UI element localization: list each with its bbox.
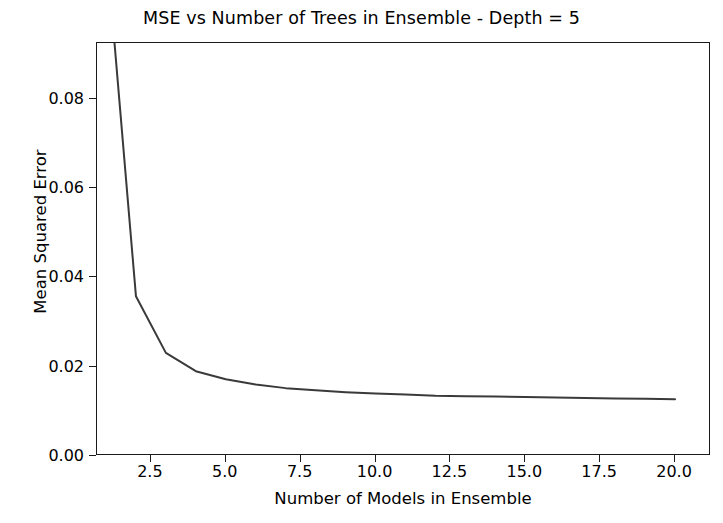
y-tick-mark — [89, 455, 96, 456]
x-tick-mark — [674, 455, 675, 462]
x-tick-mark — [524, 455, 525, 462]
x-tick-mark — [300, 455, 301, 462]
x-tick-label: 15.0 — [506, 462, 542, 481]
x-tick-label: 2.5 — [137, 462, 162, 481]
y-tick-label: 0.06 — [48, 178, 84, 197]
x-tick-mark — [150, 455, 151, 462]
x-tick-label: 10.0 — [357, 462, 393, 481]
y-tick-mark — [89, 366, 96, 367]
y-tick-label: 0.02 — [48, 356, 84, 375]
y-tick-label: 0.04 — [48, 267, 84, 286]
y-axis-label: Mean Squared Error — [31, 92, 50, 372]
x-tick-mark — [225, 455, 226, 462]
x-axis-label: Number of Models in Ensemble — [96, 489, 710, 508]
mse-curve — [106, 43, 675, 399]
x-tick-mark — [375, 455, 376, 462]
chart-title: MSE vs Number of Trees in Ensemble - Dep… — [0, 8, 723, 28]
x-tick-label: 20.0 — [656, 462, 692, 481]
x-tick-label: 12.5 — [432, 462, 468, 481]
line-plot-svg — [97, 43, 710, 455]
y-tick-mark — [89, 276, 96, 277]
x-tick-mark — [599, 455, 600, 462]
y-tick-mark — [89, 187, 96, 188]
x-tick-label: 17.5 — [581, 462, 617, 481]
x-tick-mark — [449, 455, 450, 462]
y-tick-mark — [89, 98, 96, 99]
x-tick-label: 5.0 — [212, 462, 237, 481]
x-tick-label: 7.5 — [287, 462, 312, 481]
chart-figure: MSE vs Number of Trees in Ensemble - Dep… — [0, 0, 723, 523]
plot-area — [96, 42, 710, 455]
y-tick-label: 0.08 — [48, 88, 84, 107]
y-tick-label: 0.00 — [48, 446, 84, 465]
